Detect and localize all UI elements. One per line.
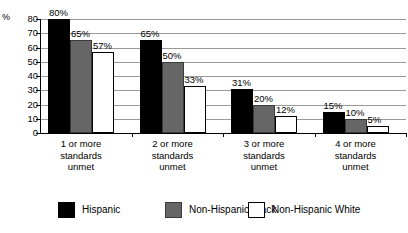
chart-legend: HispanicNon-Hispanic BlackNon-Hispanic W… bbox=[0, 196, 408, 224]
bar bbox=[162, 62, 184, 133]
bar bbox=[275, 116, 297, 133]
white-swatch bbox=[248, 202, 265, 218]
bar bbox=[323, 112, 345, 133]
category-label-line: unmet bbox=[218, 161, 310, 173]
bar-value-label: 80% bbox=[49, 8, 68, 18]
black-swatch bbox=[58, 202, 75, 218]
bar bbox=[70, 40, 92, 133]
legend-item-1[interactable]: Hispanic bbox=[58, 202, 120, 218]
bar-value-label: 65% bbox=[141, 29, 160, 39]
legend-label: Non-Hispanic White bbox=[272, 205, 360, 215]
legend-label: Hispanic bbox=[82, 205, 120, 215]
bar bbox=[253, 105, 275, 134]
bar-value-label: 10% bbox=[346, 108, 365, 118]
bar bbox=[92, 52, 114, 133]
bar bbox=[345, 119, 367, 133]
category-label-line: unmet bbox=[35, 161, 127, 173]
bar-value-label: 57% bbox=[93, 41, 112, 51]
bar bbox=[48, 19, 70, 133]
x-axis-category-labels: 1 or morestandardsunmet2 or morestandard… bbox=[0, 138, 408, 184]
category-label-4: 4 or morestandardsunmet bbox=[310, 138, 402, 173]
bar bbox=[140, 40, 162, 133]
category-label-line: 3 or more bbox=[218, 138, 310, 150]
category-label-line: 2 or more bbox=[127, 138, 219, 150]
bar bbox=[367, 126, 389, 133]
category-label-3: 3 or morestandardsunmet bbox=[218, 138, 310, 173]
legend-item-3[interactable]: Non-Hispanic White bbox=[248, 202, 360, 218]
category-label-line: standards bbox=[35, 150, 127, 162]
bar-value-label: 5% bbox=[368, 115, 382, 125]
category-label-line: 4 or more bbox=[310, 138, 402, 150]
bar-value-label: 20% bbox=[254, 94, 273, 104]
category-label-1: 1 or morestandardsunmet bbox=[35, 138, 127, 173]
category-label-line: 1 or more bbox=[35, 138, 127, 150]
bar-value-label: 65% bbox=[71, 29, 90, 39]
bar-value-label: 50% bbox=[163, 51, 182, 61]
plot-area: % 01020304050607080 80%65%57%65%50%33%31… bbox=[0, 0, 408, 150]
bar bbox=[231, 89, 253, 133]
category-label-line: standards bbox=[127, 150, 219, 162]
bars-layer: 80%65%57%65%50%33%31%20%12%15%10%5% bbox=[0, 0, 408, 150]
bar-value-label: 15% bbox=[324, 101, 343, 111]
gray-swatch bbox=[165, 202, 182, 218]
category-label-line: standards bbox=[218, 150, 310, 162]
category-label-line: standards bbox=[310, 150, 402, 162]
bar-value-label: 33% bbox=[185, 75, 204, 85]
category-label-line: unmet bbox=[310, 161, 402, 173]
bar-value-label: 12% bbox=[276, 105, 295, 115]
bar bbox=[184, 86, 206, 133]
bar-value-label: 31% bbox=[232, 78, 251, 88]
category-label-line: unmet bbox=[127, 161, 219, 173]
bar-chart: % 01020304050607080 80%65%57%65%50%33%31… bbox=[0, 0, 408, 233]
category-label-2: 2 or morestandardsunmet bbox=[127, 138, 219, 173]
